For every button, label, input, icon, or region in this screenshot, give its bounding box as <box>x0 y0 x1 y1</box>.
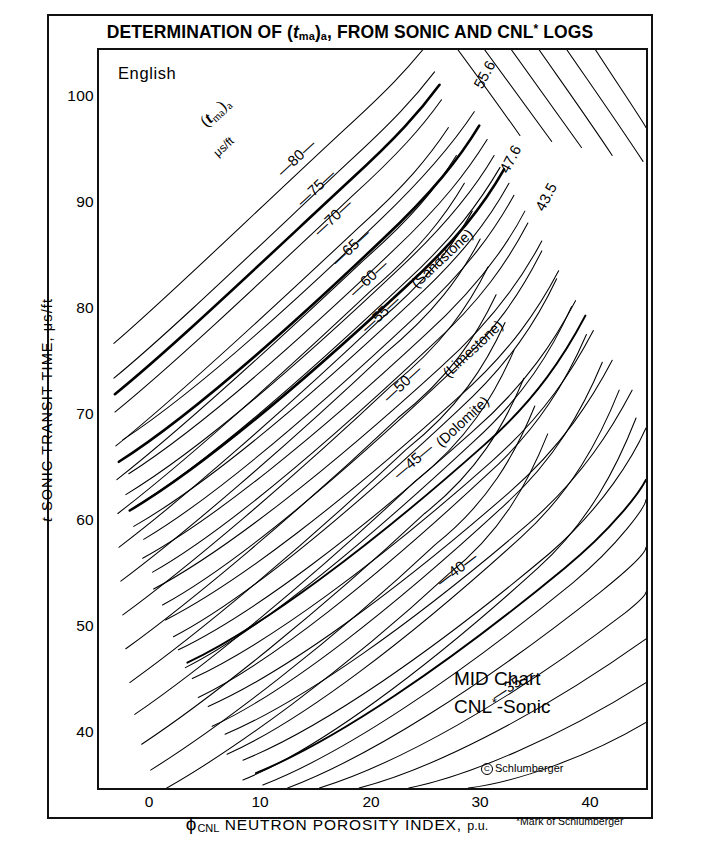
contour-family-annotation: (tma)a μs/ft <box>196 93 237 159</box>
y-tick-80: 80 <box>54 299 94 317</box>
contour-label-43p5: 43.5 <box>532 180 560 213</box>
title-post: , FROM SONIC AND CNL <box>327 22 533 42</box>
y-tick-100: 100 <box>54 87 94 105</box>
y-axis-title-text: SONIC TRANSIT TIME, μs/ft <box>39 298 55 511</box>
contour-plot-svg: —80— —75— —70— —65— —60— —55— —50— —45— … <box>99 50 646 788</box>
x-tick-0: 0 <box>129 793 169 811</box>
y-axis-variable: t <box>37 516 56 522</box>
contour-label-47p6: 47.6 <box>497 143 525 176</box>
mid-chart-line1: MID Chart <box>454 666 551 691</box>
x-tick-40: 40 <box>570 793 610 811</box>
copyright-icon: C <box>481 763 493 775</box>
x-axis-units: p.u. <box>467 819 488 833</box>
family-label-main: (tma)a <box>196 93 235 131</box>
mid-chart-page: DETERMINATION OF (tma)a, FROM SONIC AND … <box>0 0 702 845</box>
family-label-units: μs/ft <box>211 133 238 159</box>
contour-label-sandstone: (Sandstone) <box>408 226 476 291</box>
contour-lines-lower-right <box>154 241 646 785</box>
y-tick-90: 90 <box>54 193 94 211</box>
page-title: DETERMINATION OF (tma)a, FROM SONIC AND … <box>47 22 653 43</box>
mid-chart-caption: MID Chart CNL*-Sonic <box>454 666 551 719</box>
y-tick-70: 70 <box>54 405 94 423</box>
contour-label-65: —65— <box>328 226 373 269</box>
title-sub-ma: ma <box>299 30 315 42</box>
units-system-label: English <box>118 64 176 83</box>
x-tick-30: 30 <box>460 793 500 811</box>
contour-label-75: —75— <box>294 166 339 209</box>
contour-label-limestone: (Limestone) <box>440 317 506 381</box>
x-axis-title-text: NEUTRON POROSITY INDEX, <box>225 816 462 833</box>
title-end: LOGS <box>538 22 593 42</box>
plot-area: —80— —75— —70— —65— —60— —55— —50— —45— … <box>97 48 648 790</box>
contour-label-55: —55— <box>358 292 403 335</box>
copyright-text: Schlumberger <box>495 762 563 774</box>
contour-label-80: —80— <box>274 136 319 179</box>
contour-label-50: —50— <box>380 362 425 405</box>
contour-sandstone-55p6 <box>115 85 440 394</box>
mid-chart-sonic: -Sonic <box>497 696 551 717</box>
x-axis-phi-sub: CNL <box>197 822 219 834</box>
x-tick-20: 20 <box>351 793 391 811</box>
title-pre: DETERMINATION OF ( <box>107 22 293 42</box>
y-tick-50: 50 <box>54 617 94 635</box>
x-tick-10: 10 <box>240 793 280 811</box>
copyright-notice: CSchlumberger <box>481 762 563 775</box>
contour-limestone-47p6 <box>119 126 479 462</box>
x-axis-title: ϕCNL NEUTRON POROSITY INDEX, p.u. <box>97 813 577 835</box>
y-axis-title: t SONIC TRANSIT TIME, μs/ft <box>37 285 57 535</box>
y-tick-60: 60 <box>54 511 94 529</box>
x-axis-phi-symbol: ϕ <box>186 813 198 834</box>
mid-chart-cnl: CNL <box>454 696 492 717</box>
y-tick-40: 40 <box>54 723 94 741</box>
contour-label-45: —45— <box>390 440 436 482</box>
contour-label-70: —70— <box>311 196 356 239</box>
mid-chart-line2: CNL*-Sonic <box>454 691 551 719</box>
trademark-note: *Mark of Schlumberger <box>516 815 623 827</box>
